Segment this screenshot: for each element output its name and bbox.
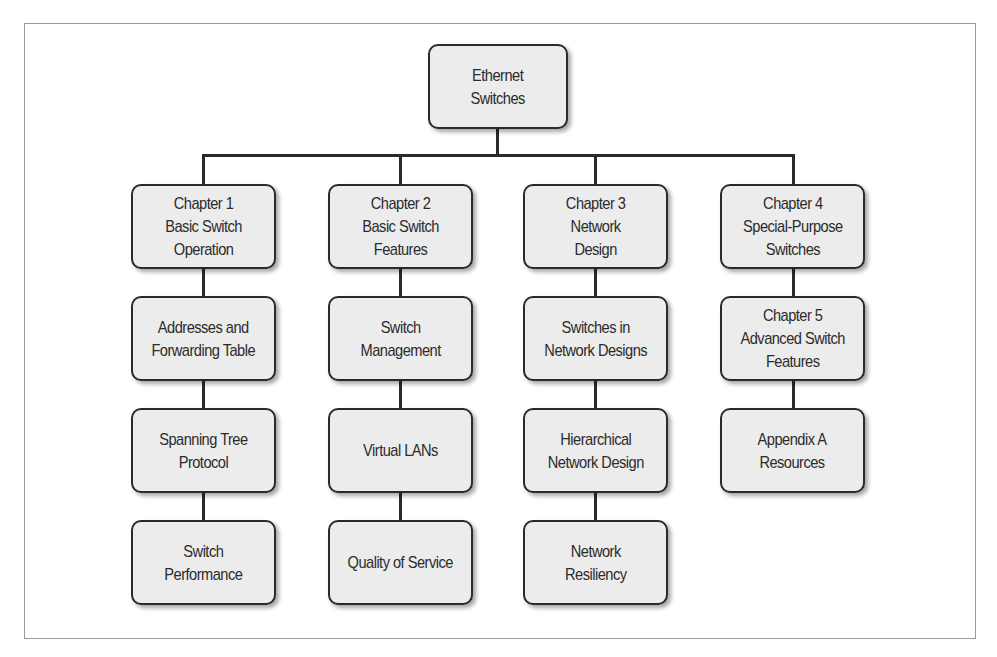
node-network-resiliency: Network Resiliency [523,520,668,605]
col4-drop [792,154,795,185]
col3-link-3 [594,492,597,521]
col3-link-1 [594,268,597,297]
node-label: Chapter 5 Advanced Switch Features [740,304,844,373]
node-switch-management: Switch Management [328,296,473,381]
node-label: Hierarchical Network Design [548,428,644,474]
node-quality-of-service: Quality of Service [328,520,473,605]
node-label: Switch Management [360,316,440,362]
col1-drop [202,154,205,185]
col1-link-2 [202,380,205,409]
node-chapter-2: Chapter 2 Basic Switch Features [328,184,473,269]
node-appendix-a: Appendix A Resources [720,408,865,493]
col2-drop [399,154,402,185]
col4-link-2 [792,380,795,409]
node-label: Ethernet Switches [471,64,525,110]
node-chapter-5: Chapter 5 Advanced Switch Features [720,296,865,381]
horizontal-bus [202,154,795,157]
node-chapter-4: Chapter 4 Special-Purpose Switches [720,184,865,269]
node-label: Switches in Network Designs [544,316,647,362]
col2-link-1 [399,268,402,297]
node-chapter-3: Chapter 3 Network Design [523,184,668,269]
node-virtual-lans: Virtual LANs [328,408,473,493]
node-root-ethernet-switches: Ethernet Switches [428,44,568,129]
col2-link-3 [399,492,402,521]
node-label: Switch Performance [164,540,242,586]
node-switch-performance: Switch Performance [131,520,276,605]
node-label: Virtual LANs [363,439,438,462]
node-label: Appendix A Resources [758,428,827,474]
node-switches-in-network-designs: Switches in Network Designs [523,296,668,381]
node-addresses-forwarding-table: Addresses and Forwarding Table [131,296,276,381]
node-chapter-1: Chapter 1 Basic Switch Operation [131,184,276,269]
node-label: Chapter 4 Special-Purpose Switches [743,192,843,261]
col1-link-1 [202,268,205,297]
node-label: Addresses and Forwarding Table [152,316,256,362]
root-connector [496,128,499,156]
col4-link-1 [792,268,795,297]
col3-drop [594,154,597,185]
col2-link-2 [399,380,402,409]
node-spanning-tree-protocol: Spanning Tree Protocol [131,408,276,493]
node-label: Chapter 1 Basic Switch Operation [165,192,242,261]
node-label: Quality of Service [348,551,453,574]
node-label: Network Resiliency [565,540,626,586]
node-label: Spanning Tree Protocol [159,428,247,474]
col3-link-2 [594,380,597,409]
node-label: Chapter 3 Network Design [566,192,626,261]
node-hierarchical-network-design: Hierarchical Network Design [523,408,668,493]
node-label: Chapter 2 Basic Switch Features [362,192,439,261]
col1-link-3 [202,492,205,521]
